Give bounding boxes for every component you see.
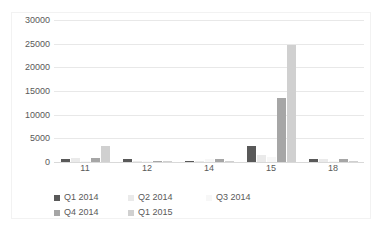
legend-swatch-icon: [206, 195, 212, 201]
y-axis-tick-label: 25000: [2, 39, 50, 48]
legend-swatch-icon: [128, 210, 134, 216]
bar: [205, 159, 214, 162]
y-axis: 300002500020000150001000050000: [0, 20, 50, 162]
bar: [143, 161, 152, 162]
y-axis-tick-label: 15000: [2, 87, 50, 96]
bar: [267, 157, 276, 162]
y-axis-tick-label: 30000: [2, 16, 50, 25]
bar: [225, 161, 234, 162]
legend-item[interactable]: Q4 2014: [54, 205, 128, 220]
bar: [287, 45, 296, 162]
bar: [101, 146, 110, 162]
bar-group: [247, 20, 296, 162]
legend-label: Q3 2014: [216, 193, 251, 202]
bar: [153, 161, 162, 162]
y-axis-tick-label: 0: [2, 158, 50, 167]
y-axis-tick-label: 10000: [2, 110, 50, 119]
legend-item[interactable]: Q1 2014: [54, 190, 128, 205]
bar: [247, 146, 256, 162]
legend-swatch-icon: [54, 195, 60, 201]
bar: [195, 161, 204, 162]
bar-group: [123, 20, 172, 162]
bar: [163, 161, 172, 162]
legend-swatch-icon: [128, 195, 134, 201]
legend-item[interactable]: Q2 2014: [128, 190, 206, 205]
chart-legend: Q1 2014Q2 2014Q3 2014Q4 2014Q1 2015: [54, 190, 354, 220]
bar: [319, 159, 328, 162]
x-axis-tick-label: 12: [142, 164, 152, 173]
bar: [81, 161, 90, 162]
x-axis-tick-label: 14: [204, 164, 214, 173]
y-axis-tick-label: 20000: [2, 63, 50, 72]
bar: [309, 159, 318, 162]
legend-item[interactable]: Q1 2015: [128, 205, 206, 220]
bar: [257, 155, 266, 162]
bar: [91, 158, 100, 162]
bar: [339, 159, 348, 162]
bar: [123, 159, 132, 162]
bar: [185, 161, 194, 162]
y-axis-tick-label: 5000: [2, 134, 50, 143]
x-axis: 1112141518: [54, 164, 364, 178]
x-axis-tick-label: 15: [266, 164, 276, 173]
legend-label: Q1 2014: [64, 193, 99, 202]
legend-label: Q2 2014: [138, 193, 173, 202]
legend-label: Q4 2014: [64, 208, 99, 217]
x-axis-tick-label: 18: [328, 164, 338, 173]
bar: [215, 159, 224, 162]
x-axis-tick-label: 11: [80, 164, 89, 173]
bar: [61, 159, 70, 162]
bar-chart: 300002500020000150001000050000 111214151…: [0, 0, 384, 245]
bar: [277, 98, 286, 162]
legend-item[interactable]: Q3 2014: [206, 190, 286, 205]
bar: [71, 158, 80, 162]
bar: [329, 161, 338, 162]
bar-group: [61, 20, 110, 162]
bar-group: [309, 20, 358, 162]
legend-label: Q1 2015: [138, 208, 173, 217]
legend-swatch-icon: [54, 210, 60, 216]
plot-area: [54, 20, 364, 162]
bars-layer: [54, 20, 364, 162]
bar: [349, 161, 358, 162]
bar-group: [185, 20, 234, 162]
bar: [133, 161, 142, 162]
